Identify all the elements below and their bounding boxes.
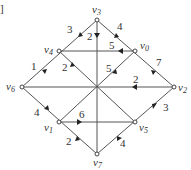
weight-v0-v4: 5 <box>109 39 115 51</box>
weight-v0-v2: 7 <box>156 56 162 68</box>
node-v4 <box>57 49 61 53</box>
label-v2: v2 <box>178 81 187 95</box>
weight-v3-center: 2 <box>87 30 93 42</box>
weight-v4-v6: 1 <box>31 60 37 72</box>
label-v6: v6 <box>6 80 15 94</box>
weight-v2-center: 2 <box>133 73 139 85</box>
bracket: ] <box>0 2 4 14</box>
label-v3: v3 <box>92 3 101 17</box>
weight-v2-v5: 3 <box>163 101 169 113</box>
graph-diagram: ] v0 <box>0 0 191 170</box>
label-v5: v5 <box>139 121 148 135</box>
arrow-v4-v6 <box>42 69 47 74</box>
weight-v5-v7: 4 <box>120 137 126 149</box>
weight-v4-center: 2 <box>62 61 68 73</box>
edge-v3-v6-side <box>22 20 97 87</box>
arrow-v3-center <box>94 33 100 38</box>
label-v1: v1 <box>44 121 53 135</box>
weight-v1-v7: 2 <box>66 135 72 147</box>
weight-v1-v5: 6 <box>79 108 85 120</box>
arrow-v0-v4 <box>118 48 123 54</box>
label-v7: v7 <box>93 156 103 170</box>
node-v0 <box>133 49 137 53</box>
node-v5 <box>133 120 137 124</box>
node-v1 <box>57 120 61 124</box>
node-v6 <box>20 85 24 89</box>
weight-v3-v4: 3 <box>67 23 73 35</box>
arrow-v2-v5 <box>152 103 157 109</box>
weight-v0-v3: 4 <box>117 20 123 32</box>
weight-v1-v6: 4 <box>34 106 40 118</box>
node-v3 <box>95 18 99 22</box>
label-v4: v4 <box>44 43 53 57</box>
label-v0: v0 <box>140 39 149 53</box>
arrow-v4-center <box>70 62 75 67</box>
weight-v0-center: 5 <box>106 62 112 74</box>
node-v2 <box>172 85 176 89</box>
